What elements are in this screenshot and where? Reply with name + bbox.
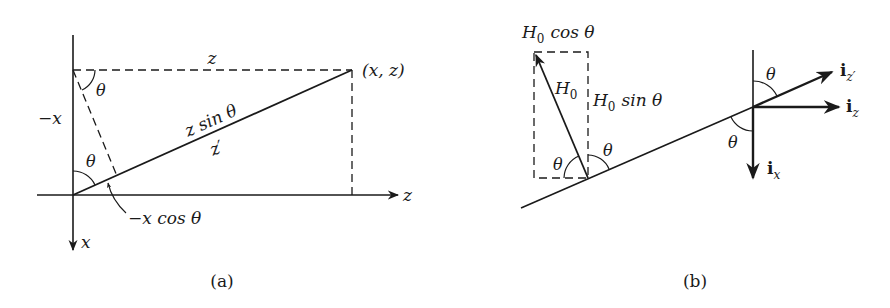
x-axis-label: x [81, 232, 91, 252]
caption-b: (b) [683, 271, 707, 291]
h0-cos-theta-label: H0cos θ [521, 22, 595, 46]
iz-prime-label: iz′ [840, 60, 856, 84]
h0-label: H0 [554, 78, 577, 102]
pointer-curve [108, 183, 126, 213]
neg-x-cos-theta-label: −x cos θ [128, 208, 201, 228]
z-prime-line [73, 70, 352, 195]
figure-canvas: z (x, z) −x θ θ z sin θ z′ −x cos θ z x … [0, 0, 890, 308]
caption-a: (a) [210, 271, 233, 291]
theta-right-label: θ [603, 141, 613, 160]
z-axis-label: z [402, 185, 413, 205]
theta-top-label: θ [96, 81, 106, 100]
z-prime-label: z′ [206, 136, 227, 160]
theta-bottom-label: θ [86, 152, 96, 171]
iz-prime-arrow [753, 72, 832, 107]
theta-arc-lower [731, 117, 753, 131]
figure-a: z (x, z) −x θ θ z sin θ z′ −x cos θ z x … [37, 35, 413, 291]
theta-upper-label: θ [766, 65, 776, 84]
point-label: (x, z) [362, 60, 405, 80]
theta-left-label: θ [553, 155, 563, 174]
figure-b: H0cos θ H0 H0sin θ θ θ θ θ iz′ iz ix (b) [521, 22, 859, 291]
theta-arc-bottom [73, 171, 95, 185]
ix-label: ix [767, 158, 780, 182]
theta-arc-left [564, 156, 579, 178]
theta-arc-top [82, 70, 95, 90]
h0-sin-theta-label: H0sin θ [592, 90, 662, 114]
top-z-label: z [207, 48, 218, 68]
theta-lower-label: θ [728, 133, 738, 152]
diagram-svg: z (x, z) −x θ θ z sin θ z′ −x cos θ z x … [0, 0, 890, 308]
z-sin-theta-label: z sin θ [181, 100, 240, 141]
neg-x-label: −x [38, 108, 62, 128]
iz-label: iz [846, 96, 859, 120]
